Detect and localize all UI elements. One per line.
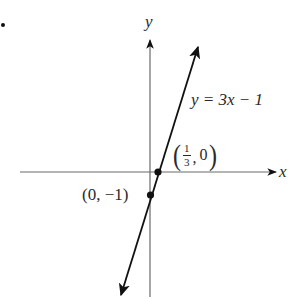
- graph: [0, 0, 289, 299]
- fraction-denominator: 3: [184, 156, 190, 168]
- y-intercept-label: (0, −1): [82, 186, 128, 203]
- equation-text: y = 3x − 1: [191, 90, 263, 109]
- x-axis-label: x: [279, 163, 287, 180]
- close-paren: ): [209, 140, 217, 170]
- bullet-dot: [1, 23, 5, 27]
- point-y-intercept: [147, 191, 154, 198]
- open-paren: (: [173, 140, 181, 170]
- point-x-intercept: [154, 168, 161, 175]
- x-intercept-y-value: 0: [200, 146, 208, 164]
- y-axis-label: y: [145, 13, 153, 30]
- equation-label: y = 3x − 1: [191, 91, 263, 108]
- comma: ,: [193, 149, 197, 167]
- fraction: 1 3: [183, 143, 191, 168]
- x-intercept-label: ( 1 3 , 0 ): [172, 140, 218, 170]
- fraction-numerator: 1: [183, 143, 191, 156]
